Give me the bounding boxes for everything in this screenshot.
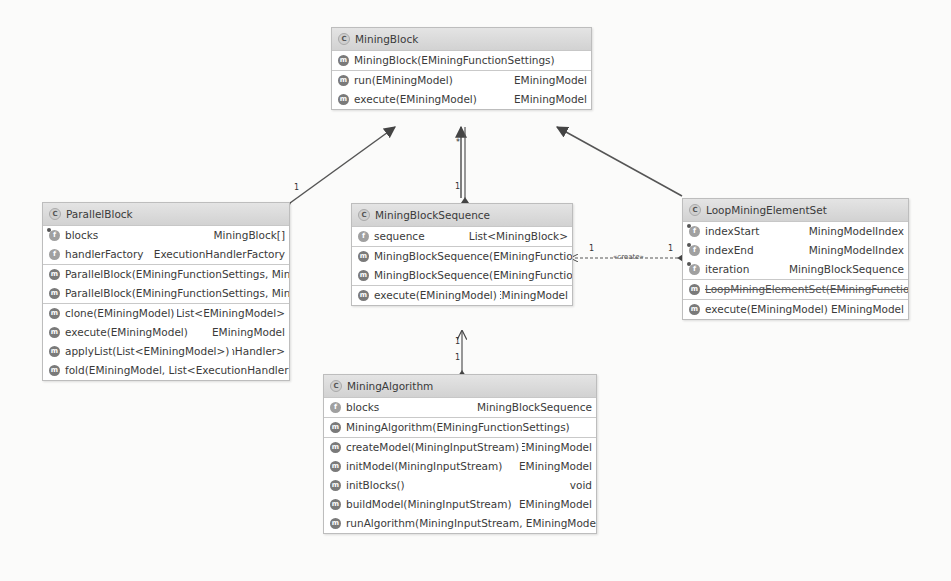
- class-icon: C: [338, 33, 350, 45]
- class-parallelblock[interactable]: CParallelBlock fblocksMiningBlock[] fhan…: [42, 202, 290, 381]
- field-row[interactable]: fsequenceList<MiningBlock>: [352, 227, 572, 246]
- field-icon: f: [330, 402, 341, 413]
- method-row[interactable]: mbuildModel(MiningInputStream)EMiningMod…: [324, 495, 596, 514]
- class-header: CLoopMiningElementSet: [683, 199, 908, 222]
- method-row[interactable]: mapplyList(List<EMiningModel>)tionHandle…: [43, 342, 289, 361]
- constructor-row[interactable]: mParallelBlock(EMiningFunctionSettings, …: [43, 284, 289, 303]
- method-icon: m: [330, 480, 341, 491]
- method-row[interactable]: minitBlocks()void: [324, 476, 596, 495]
- methods-section: mexecute(EMiningModel)EMiningModel: [683, 300, 908, 319]
- create-stereotype-label: «create»: [613, 253, 644, 261]
- edge-parallel-to-miningblock: [290, 127, 395, 203]
- method-row[interactable]: mrun(EMiningModel)EMiningModel: [332, 71, 591, 90]
- class-miningblock[interactable]: CMiningBlock mMiningBlock(EMiningFunctio…: [331, 27, 592, 110]
- constructor-row[interactable]: mMiningBlockSequence(EMiningFunctionSet: [352, 247, 572, 266]
- method-icon: m: [358, 251, 369, 262]
- class-header: CMiningBlock: [332, 28, 591, 51]
- constructor-row[interactable]: mMiningBlock(EMiningFunctionSettings): [332, 51, 591, 70]
- constructors-section: mParallelBlock(EMiningFunctionSettings, …: [43, 265, 289, 304]
- fields-section: fblocksMiningBlock[] fhandlerFactoryExec…: [43, 226, 289, 265]
- method-row[interactable]: mexecute(EMiningModel)EMiningModel: [352, 286, 572, 305]
- fields-section: fblocksMiningBlockSequence: [324, 398, 596, 418]
- class-loopminingelementset[interactable]: CLoopMiningElementSet findexStartMiningM…: [682, 198, 909, 320]
- class-miningalgorithm[interactable]: CMiningAlgorithm fblocksMiningBlockSeque…: [323, 374, 597, 534]
- constructors-section: mLoopMiningElementSet(EMiningFunctionS: [683, 280, 908, 300]
- field-icon: f: [689, 226, 700, 237]
- methods-section: mcreateModel(MiningInputStream)EMiningMo…: [324, 438, 596, 533]
- constructors-section: mMiningBlockSequence(EMiningFunctionSet …: [352, 247, 572, 286]
- field-row[interactable]: fhandlerFactoryExecutionHandlerFactory: [43, 245, 289, 264]
- multiplicity-label: 1: [455, 353, 460, 362]
- class-header: CParallelBlock: [43, 203, 289, 226]
- class-header: CMiningBlockSequence: [352, 204, 572, 227]
- method-icon: m: [330, 461, 341, 472]
- method-icon: m: [330, 442, 341, 453]
- method-icon: m: [338, 55, 349, 66]
- constructor-row[interactable]: mParallelBlock(EMiningFunctionSettings, …: [43, 265, 289, 284]
- fields-section: findexStartMiningModelIndex findexEndMin…: [683, 222, 908, 280]
- method-icon: m: [49, 327, 60, 338]
- multiplicity-label: *: [456, 138, 460, 147]
- method-icon: m: [338, 75, 349, 86]
- method-row[interactable]: mcreateModel(MiningInputStream)EMiningMo…: [324, 438, 596, 457]
- method-icon: m: [358, 290, 369, 301]
- method-row[interactable]: mrunAlgorithm(MiningInputStream, EMining…: [324, 514, 596, 533]
- method-row[interactable]: mexecute(EMiningModel)EMiningModel: [43, 323, 289, 342]
- method-icon: m: [49, 269, 60, 280]
- method-icon: m: [689, 304, 700, 315]
- field-icon: f: [49, 230, 60, 241]
- field-row[interactable]: findexEndMiningModelIndex: [683, 241, 908, 260]
- field-icon: f: [49, 249, 60, 260]
- class-icon: C: [689, 204, 701, 216]
- field-row[interactable]: fblocksMiningBlockSequence: [324, 398, 596, 417]
- method-icon: m: [49, 365, 60, 376]
- edge-loop-to-miningblock: [557, 127, 682, 196]
- method-icon: m: [330, 422, 341, 433]
- method-row[interactable]: mfold(EMiningModel, List<ExecutionHandle…: [43, 361, 289, 380]
- field-row[interactable]: fblocksMiningBlock[]: [43, 226, 289, 245]
- constructor-row[interactable]: mMiningAlgorithm(EMiningFunctionSettings…: [324, 418, 596, 437]
- field-icon: f: [689, 245, 700, 256]
- fields-section: fsequenceList<MiningBlock>: [352, 227, 572, 247]
- method-row[interactable]: minitModel(MiningInputStream)EMiningMode…: [324, 457, 596, 476]
- method-row[interactable]: mclone(EMiningModel)List<EMiningModel>: [43, 304, 289, 323]
- constructor-row[interactable]: mMiningBlockSequence(EMiningFunctionSet: [352, 266, 572, 285]
- method-row[interactable]: mexecute(EMiningModel)EMiningModel: [683, 300, 908, 319]
- field-row[interactable]: findexStartMiningModelIndex: [683, 222, 908, 241]
- method-icon: m: [358, 270, 369, 281]
- method-icon: m: [689, 284, 700, 295]
- class-icon: C: [330, 380, 342, 392]
- constructors-section: mMiningAlgorithm(EMiningFunctionSettings…: [324, 418, 596, 438]
- method-icon: m: [49, 346, 60, 357]
- uml-class-diagram: CMiningBlock mMiningBlock(EMiningFunctio…: [0, 0, 951, 581]
- multiplicity-label: 1: [294, 183, 299, 192]
- class-miningblocksequence[interactable]: CMiningBlockSequence fsequenceList<Minin…: [351, 203, 573, 306]
- multiplicity-label: 1: [455, 182, 460, 191]
- method-icon: m: [330, 499, 341, 510]
- class-icon: C: [49, 208, 61, 220]
- multiplicity-label: 1: [668, 244, 673, 253]
- method-icon: m: [330, 518, 341, 529]
- field-row[interactable]: fiterationMiningBlockSequence: [683, 260, 908, 279]
- method-row[interactable]: mexecute(EMiningModel)EMiningModel: [332, 90, 591, 109]
- methods-section: mexecute(EMiningModel)EMiningModel: [352, 286, 572, 305]
- method-icon: m: [49, 308, 60, 319]
- class-icon: C: [358, 209, 370, 221]
- field-icon: f: [358, 231, 369, 242]
- field-icon: f: [689, 264, 700, 275]
- class-header: CMiningAlgorithm: [324, 375, 596, 398]
- method-icon: m: [49, 288, 60, 299]
- multiplicity-label: 1: [455, 337, 460, 346]
- constructors-section: mMiningBlock(EMiningFunctionSettings): [332, 51, 591, 71]
- method-icon: m: [338, 94, 349, 105]
- constructor-row[interactable]: mLoopMiningElementSet(EMiningFunctionS: [683, 280, 908, 299]
- multiplicity-label: 1: [589, 244, 594, 253]
- methods-section: mclone(EMiningModel)List<EMiningModel> m…: [43, 304, 289, 380]
- methods-section: mrun(EMiningModel)EMiningModel mexecute(…: [332, 71, 591, 109]
